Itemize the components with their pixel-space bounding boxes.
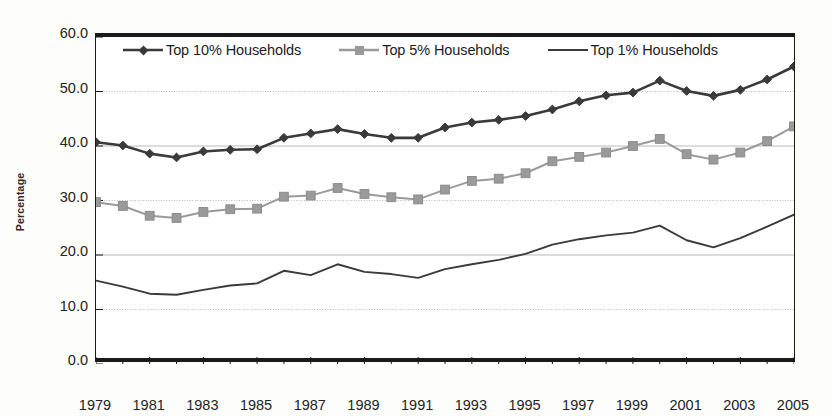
x-tick-label: 2003 xyxy=(723,397,755,413)
x-tick-label: 2001 xyxy=(669,397,701,413)
x-tick-label: 2005 xyxy=(777,397,809,413)
x-tick-label: 1991 xyxy=(401,397,433,413)
x-tick-label: 1999 xyxy=(616,397,648,413)
x-tick-label: 1981 xyxy=(133,397,165,413)
x-tick-label: 1993 xyxy=(455,397,487,413)
x-tick-label: 1989 xyxy=(347,397,379,413)
x-tick-label: 1979 xyxy=(79,397,111,413)
x-axis-tick-labels: 1979198119831985198719891991199319951997… xyxy=(0,0,832,416)
x-tick-label: 1985 xyxy=(240,397,272,413)
x-tick-label: 1997 xyxy=(562,397,594,413)
x-tick-label: 1983 xyxy=(186,397,218,413)
x-tick-label: 1987 xyxy=(294,397,326,413)
x-tick-label: 1995 xyxy=(508,397,540,413)
chart-figure: Percentage 0.010.020.030.040.050.060.0 T… xyxy=(0,0,832,416)
